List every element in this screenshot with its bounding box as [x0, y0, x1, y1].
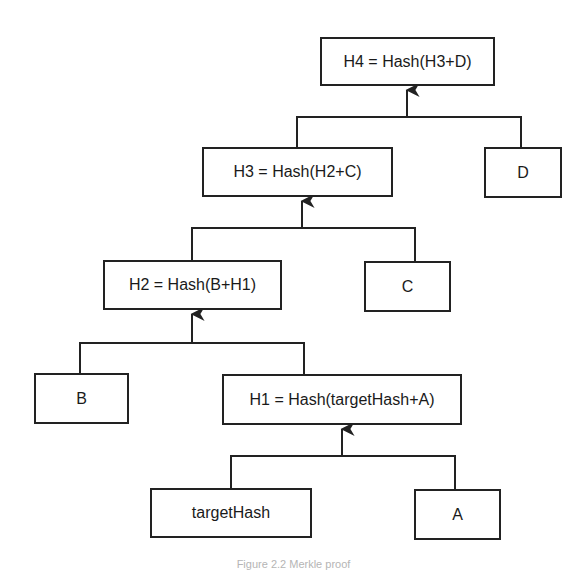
node-b: B — [34, 373, 129, 424]
node-h2-label: H2 = Hash(B+H1) — [129, 276, 256, 294]
node-c: C — [364, 261, 451, 312]
node-h3-label: H3 = Hash(H2+C) — [233, 163, 361, 181]
edge-h4-bracket — [297, 117, 521, 147]
node-d-label: D — [517, 164, 529, 182]
node-c-label: C — [402, 278, 414, 296]
node-h3: H3 = Hash(H2+C) — [202, 147, 393, 197]
node-a: A — [414, 489, 501, 540]
node-target-hash-label: targetHash — [192, 504, 270, 522]
node-d: D — [484, 147, 562, 198]
edge-h2-bracket — [80, 343, 304, 374]
node-target-hash: targetHash — [150, 488, 312, 538]
node-h1-label: H1 = Hash(targetHash+A) — [250, 391, 435, 409]
node-h2: H2 = Hash(B+H1) — [103, 260, 282, 310]
node-h4: H4 = Hash(H3+D) — [320, 37, 495, 86]
node-h4-label: H4 = Hash(H3+D) — [343, 53, 471, 71]
node-h1: H1 = Hash(targetHash+A) — [222, 374, 462, 425]
node-a-label: A — [452, 506, 463, 524]
figure-caption: Figure 2.2 Merkle proof — [0, 558, 587, 570]
node-b-label: B — [76, 390, 87, 408]
edge-h3-bracket — [192, 228, 415, 261]
edge-h1-bracket — [231, 456, 455, 489]
